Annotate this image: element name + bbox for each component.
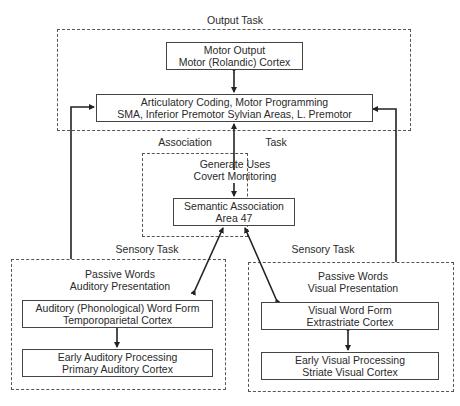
auditory-title-line1: Passive Words xyxy=(40,268,200,280)
visual-title-line2: Visual Presentation xyxy=(278,282,428,294)
association-label: Association xyxy=(150,136,220,148)
early-auditory-box: Early Auditory Processing Primary Audito… xyxy=(22,349,213,377)
articulatory-line2: SMA, Inferior Premotor Sylvian Areas, L.… xyxy=(117,108,352,120)
visual-title: Passive Words Visual Presentation xyxy=(278,270,428,294)
sensory-task-visual-label: Sensory Task xyxy=(286,243,360,255)
auditory-word-form-line1: Auditory (Phonological) Word Form xyxy=(36,302,200,314)
auditory-title-line2: Auditory Presentation xyxy=(40,280,200,292)
auditory-title: Passive Words Auditory Presentation xyxy=(40,268,200,292)
articulatory-line1: Articulatory Coding, Motor Programming xyxy=(141,96,328,108)
visual-word-form-line2: Extrastriate Cortex xyxy=(307,316,394,328)
early-auditory-line1: Early Auditory Processing xyxy=(58,351,178,363)
visual-word-form-box: Visual Word Form Extrastriate Cortex xyxy=(261,302,439,330)
early-visual-line2: Striate Visual Cortex xyxy=(302,366,398,378)
generate-line1: Generate Uses xyxy=(160,158,310,170)
generate-uses-text: Generate Uses Covert Monitoring xyxy=(160,158,310,182)
sensory-task-auditory-label: Sensory Task xyxy=(110,243,184,255)
early-visual-box: Early Visual Processing Striate Visual C… xyxy=(261,352,439,380)
auditory-word-form-line2: Temporoparietal Cortex xyxy=(63,314,172,326)
early-auditory-line2: Primary Auditory Cortex xyxy=(62,363,173,375)
semantic-line1: Semantic Association xyxy=(184,200,284,212)
semantic-line2: Area 47 xyxy=(216,212,253,224)
early-visual-line1: Early Visual Processing xyxy=(295,354,405,366)
output-task-label: Output Task xyxy=(200,14,270,26)
arrow-visual-semantic xyxy=(245,228,276,299)
semantic-association-box: Semantic Association Area 47 xyxy=(173,198,295,226)
motor-output-line2: Motor (Rolandic) Cortex xyxy=(179,56,290,68)
motor-output-line1: Motor Output xyxy=(204,44,265,56)
visual-word-form-line1: Visual Word Form xyxy=(308,304,392,316)
motor-output-box: Motor Output Motor (Rolandic) Cortex xyxy=(166,42,303,70)
generate-line2: Covert Monitoring xyxy=(160,170,310,182)
task-label: Task xyxy=(261,136,291,148)
auditory-word-form-box: Auditory (Phonological) Word Form Tempor… xyxy=(22,300,213,328)
articulatory-box: Articulatory Coding, Motor Programming S… xyxy=(96,94,373,122)
arrow-visual-group-articulatory xyxy=(373,109,396,262)
visual-title-line1: Passive Words xyxy=(278,270,428,282)
arrow-auditory-group-articulatory xyxy=(71,107,94,259)
